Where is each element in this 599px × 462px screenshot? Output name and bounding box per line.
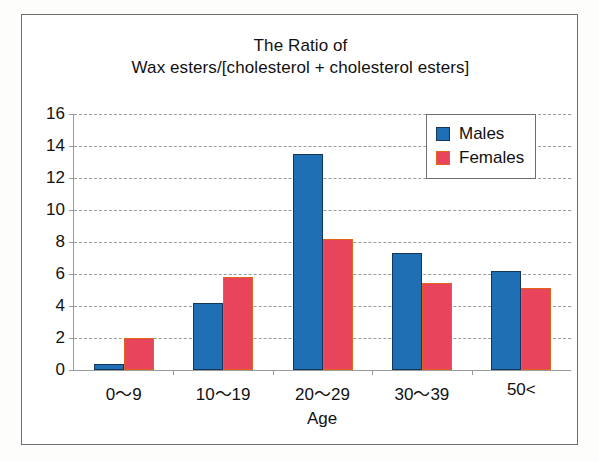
figure-border: The Ratio of Wax esters/[cholesterol + c… <box>21 14 578 445</box>
x-tick-label: 50< <box>507 380 536 400</box>
y-tick-label: 0 <box>56 360 65 380</box>
legend-swatch-females-icon <box>436 151 450 165</box>
y-tick-label: 4 <box>56 296 65 316</box>
x-tick-label: 20〜29 <box>295 380 350 405</box>
bar-group <box>193 114 253 370</box>
x-tick-label: 0〜9 <box>106 380 142 405</box>
x-tick-mark <box>372 370 373 375</box>
bar-females-4 <box>521 288 551 370</box>
bar-females-2 <box>323 239 353 370</box>
y-tick-label: 2 <box>56 328 65 348</box>
bar-males-3 <box>392 253 422 370</box>
legend-item-females: Females <box>436 146 525 170</box>
legend-label-females: Females <box>459 148 524 168</box>
x-tick-mark <box>472 370 473 375</box>
chart-title-line-1: The Ratio of <box>22 35 579 57</box>
y-tick-label: 16 <box>46 104 65 124</box>
y-tick-label: 12 <box>46 168 65 188</box>
bar-males-4 <box>491 271 521 370</box>
y-tick-mark <box>69 370 74 371</box>
y-tick-label: 6 <box>56 264 65 284</box>
x-axis-title: Age <box>73 409 571 429</box>
x-tick-mark <box>273 370 274 375</box>
gridline <box>74 370 571 371</box>
bar-group <box>94 114 154 370</box>
y-tick-label: 14 <box>46 136 65 156</box>
legend-swatch-males-icon <box>436 127 450 141</box>
chart-title: The Ratio of Wax esters/[cholesterol + c… <box>22 35 579 80</box>
x-tick-mark <box>173 370 174 375</box>
x-tick-label: 10〜19 <box>196 380 251 405</box>
chart-legend: Males Females <box>426 114 536 179</box>
bar-males-1 <box>193 303 223 370</box>
chart-title-line-2: Wax esters/[cholesterol + cholesterol es… <box>22 57 579 79</box>
legend-label-males: Males <box>459 124 504 144</box>
bar-males-0 <box>94 364 124 370</box>
bar-males-2 <box>293 154 323 370</box>
chart-figure: The Ratio of Wax esters/[cholesterol + c… <box>0 0 599 462</box>
bar-females-3 <box>422 283 452 370</box>
bar-group <box>293 114 353 370</box>
y-tick-label: 10 <box>46 200 65 220</box>
bar-females-1 <box>223 277 253 370</box>
bar-females-0 <box>124 338 154 370</box>
x-tick-label: 30〜39 <box>394 380 449 405</box>
legend-item-males: Males <box>436 122 525 146</box>
y-tick-label: 8 <box>56 232 65 252</box>
